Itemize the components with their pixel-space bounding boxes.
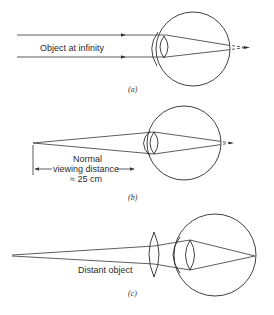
panel-c: Distant object (c) [12, 214, 256, 298]
ray-top [12, 246, 154, 255]
eye-lens [150, 132, 158, 154]
label-viewing-distance: viewing distance [53, 164, 119, 174]
caption-c: (c) [128, 289, 137, 298]
caption-a: (a) [128, 85, 138, 94]
eyeball [174, 214, 256, 296]
label-normal: Normal [73, 154, 102, 164]
label-25cm: ≈ 25 cm [70, 174, 102, 184]
ray-bottom [33, 143, 154, 154]
eye-lens [186, 240, 195, 270]
eyeball [156, 12, 230, 86]
corrective-lens [149, 232, 159, 277]
ray-top [33, 132, 154, 143]
panel-a: Object at infinity (a) [17, 12, 250, 94]
ray-bottom [12, 256, 154, 264]
label-object-at-infinity: Object at infinity [40, 43, 105, 53]
label-distant-object: Distant object [78, 265, 133, 275]
optics-figure: Object at infinity (a) Normal viewing di… [0, 0, 274, 315]
eye-lens [160, 36, 168, 58]
panel-b: Normal viewing distance ≈ 25 cm (b) [33, 106, 234, 202]
caption-b: (b) [128, 193, 138, 202]
cornea [152, 32, 158, 66]
